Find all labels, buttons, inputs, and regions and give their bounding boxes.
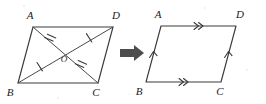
left-vertex-label-b: B bbox=[7, 86, 14, 98]
left-vertex-label-c: C bbox=[92, 86, 100, 98]
parallelogram-diagram: A D B C O bbox=[0, 0, 266, 104]
right-vertex-label-d: D bbox=[235, 8, 244, 20]
right-vertex-label-b: B bbox=[136, 85, 143, 97]
diagram-canvas: A D B C O bbox=[0, 0, 266, 104]
right-vertex-label-c: C bbox=[216, 85, 224, 97]
right-vertex-label-a: A bbox=[154, 8, 162, 20]
left-vertex-label-a: A bbox=[26, 9, 34, 21]
intersection-label-o: O bbox=[61, 54, 68, 64]
left-vertex-label-d: D bbox=[111, 9, 120, 21]
